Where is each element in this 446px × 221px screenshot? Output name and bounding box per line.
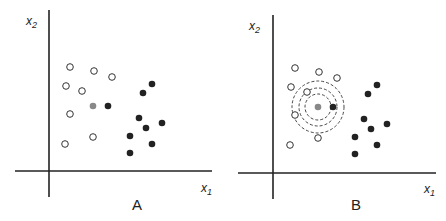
filled-point	[143, 125, 150, 132]
filled-point	[159, 120, 166, 127]
open-point	[334, 75, 341, 82]
open-point	[90, 134, 97, 141]
data-points	[62, 64, 166, 157]
panel-label: A	[132, 196, 142, 213]
filled-point	[384, 121, 391, 128]
open-point	[292, 112, 299, 119]
open-point	[288, 84, 295, 91]
open-point	[62, 141, 69, 148]
open-point	[67, 111, 74, 118]
filled-point	[136, 115, 143, 122]
query-point	[90, 103, 97, 110]
filled-point	[149, 141, 156, 148]
filled-point	[149, 81, 156, 88]
y-axis-label: x2	[248, 19, 260, 35]
filled-point	[368, 126, 375, 133]
filled-point	[127, 133, 134, 140]
query-point	[315, 104, 322, 111]
filled-point	[361, 116, 368, 123]
filled-point	[140, 90, 147, 97]
open-point	[315, 135, 322, 142]
y-axis-label: x2	[25, 14, 37, 30]
x-axis-label: x1	[200, 181, 212, 197]
filled-point	[352, 151, 359, 158]
filled-point	[374, 142, 381, 149]
filled-point	[374, 82, 381, 89]
open-point	[316, 69, 323, 76]
open-point	[91, 68, 98, 75]
open-point	[109, 74, 116, 81]
data-points	[287, 65, 391, 158]
open-point	[287, 142, 294, 149]
filled-point	[352, 134, 359, 141]
panel-a: x2 x1 A	[15, 10, 212, 213]
filled-point	[105, 103, 112, 110]
open-point	[63, 83, 70, 90]
panel-b: x2 x1 B	[238, 15, 436, 213]
filled-point	[330, 104, 337, 111]
knn-diagram: x2 x1 A x2 x1 B	[0, 0, 446, 221]
filled-point	[127, 150, 134, 157]
filled-point	[365, 91, 372, 98]
open-point	[79, 88, 86, 95]
open-point	[304, 89, 311, 96]
x-axis-label: x1	[423, 182, 435, 198]
panel-label: B	[351, 196, 361, 213]
open-point	[67, 64, 74, 71]
open-point	[292, 65, 299, 72]
